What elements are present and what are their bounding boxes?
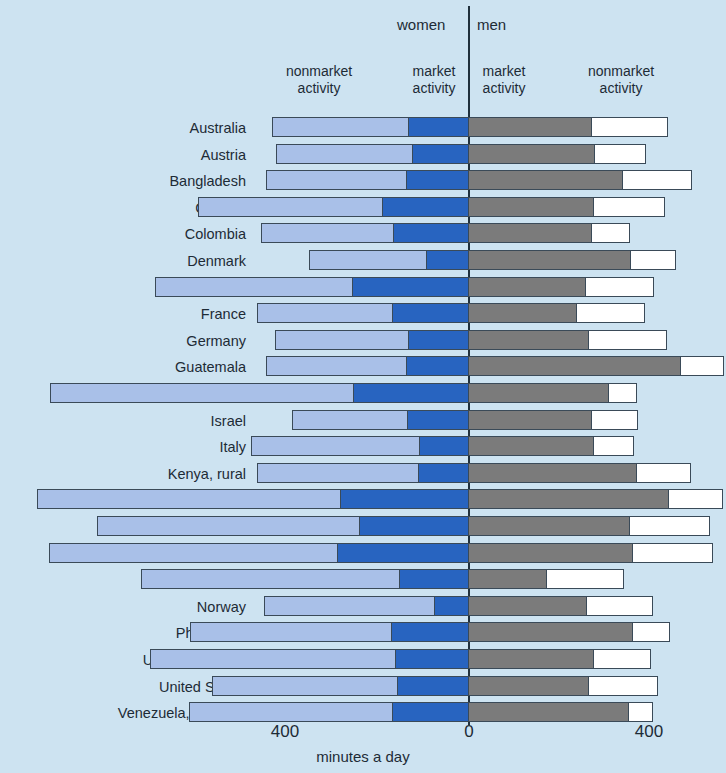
bar-segment-men-nonmarket bbox=[668, 489, 723, 509]
bar-segment-men-nonmarket bbox=[576, 303, 645, 323]
bar-segment-men-nonmarket bbox=[591, 223, 630, 243]
bar-segment-men-market bbox=[468, 356, 681, 376]
bar-segment-women-market bbox=[407, 410, 469, 430]
bar-segment-women-market bbox=[382, 197, 469, 217]
bar-segment-women-market bbox=[392, 303, 469, 323]
country-label: France bbox=[28, 305, 246, 324]
bar-segment-men-nonmarket bbox=[636, 463, 691, 483]
bar-segment-women-market bbox=[359, 516, 469, 536]
bar-segment-women-nonmarket bbox=[261, 223, 394, 243]
table-row: Guatemala bbox=[0, 356, 726, 383]
bar-segment-men-nonmarket bbox=[630, 250, 676, 270]
bar-segment-men-nonmarket bbox=[632, 543, 713, 563]
bar-segment-men-nonmarket bbox=[632, 622, 670, 642]
bar-segment-men-market bbox=[468, 383, 609, 403]
bar-segment-women-nonmarket bbox=[264, 596, 435, 616]
country-label: Australia bbox=[28, 119, 246, 138]
bar-segment-women-market bbox=[406, 170, 469, 190]
bar-segment-men-market bbox=[468, 250, 631, 270]
bar-segment-men-nonmarket bbox=[588, 676, 658, 696]
country-label: Denmark bbox=[28, 252, 246, 271]
table-row: France bbox=[0, 303, 726, 330]
table-row: Kenya, rural bbox=[0, 463, 726, 490]
bar-segment-women-market bbox=[352, 277, 469, 297]
bar-segment-women-market bbox=[397, 676, 469, 696]
bar-segment-women-market bbox=[408, 117, 469, 137]
bar-segment-men-market bbox=[468, 596, 587, 616]
bar-segment-men-nonmarket bbox=[588, 330, 667, 350]
table-row: Australia bbox=[0, 117, 726, 144]
bar-segment-women-market bbox=[391, 622, 469, 642]
bar-segment-women-market bbox=[337, 543, 469, 563]
bar-segment-men-market bbox=[468, 622, 633, 642]
table-row: Colombia bbox=[0, 223, 726, 250]
bar-segment-women-nonmarket bbox=[266, 170, 407, 190]
table-row: Canada bbox=[0, 197, 726, 224]
bar-segment-men-market bbox=[468, 569, 547, 589]
bar-segment-women-market bbox=[408, 330, 469, 350]
bar-segment-women-market bbox=[406, 356, 469, 376]
bar-segment-men-market bbox=[468, 543, 633, 563]
table-row: Nepal, urban bbox=[0, 543, 726, 570]
bar-segment-women-nonmarket bbox=[257, 303, 393, 323]
table-row: United Kingdom bbox=[0, 649, 726, 676]
bar-segment-women-market bbox=[392, 702, 469, 722]
table-row: Netherlands bbox=[0, 569, 726, 596]
bar-segment-women-nonmarket bbox=[150, 649, 396, 669]
country-label: Austria bbox=[28, 146, 246, 165]
plot-area: AustraliaAustriaBangladeshCanadaColombia… bbox=[0, 0, 726, 730]
bar-segment-men-market bbox=[468, 489, 669, 509]
bar-segment-men-market bbox=[468, 277, 586, 297]
bar-segment-women-market bbox=[412, 144, 469, 164]
bar-segment-men-market bbox=[468, 702, 629, 722]
bar-segment-women-market bbox=[434, 596, 469, 616]
table-row: Nepal, rural bbox=[0, 516, 726, 543]
table-row: Italy bbox=[0, 436, 726, 463]
x-axis-title: minutes a day bbox=[0, 748, 726, 765]
bar-segment-women-market bbox=[393, 223, 469, 243]
x-tick-right-400: 400 bbox=[619, 722, 679, 742]
bar-segment-women-market bbox=[340, 489, 469, 509]
table-row: Philippines bbox=[0, 622, 726, 649]
bar-segment-women-nonmarket bbox=[50, 383, 354, 403]
bar-segment-women-nonmarket bbox=[189, 702, 393, 722]
bar-segment-men-market bbox=[468, 410, 592, 430]
bar-segment-women-nonmarket bbox=[257, 463, 419, 483]
table-row: Finland bbox=[0, 277, 726, 304]
table-row: Kenya, urban bbox=[0, 489, 726, 516]
bar-segment-men-nonmarket bbox=[628, 702, 653, 722]
bar-segment-men-nonmarket bbox=[608, 383, 637, 403]
bar-segment-men-market bbox=[468, 516, 630, 536]
bar-segment-women-nonmarket bbox=[97, 516, 361, 536]
bar-segment-men-market bbox=[468, 197, 594, 217]
table-row: Austria bbox=[0, 144, 726, 171]
bar-segment-men-market bbox=[468, 144, 595, 164]
table-row: Venezuela, R. B. de bbox=[0, 702, 726, 729]
bar-segment-men-nonmarket bbox=[629, 516, 710, 536]
bar-segment-men-market bbox=[468, 330, 589, 350]
bar-segment-women-nonmarket bbox=[276, 144, 413, 164]
bar-segment-women-nonmarket bbox=[155, 277, 353, 297]
table-row: Indonesia bbox=[0, 383, 726, 410]
bar-segment-women-nonmarket bbox=[266, 356, 407, 376]
bar-segment-men-nonmarket bbox=[593, 197, 665, 217]
country-label: Italy bbox=[28, 438, 246, 457]
bar-segment-women-market bbox=[353, 383, 469, 403]
bar-segment-women-market bbox=[426, 250, 469, 270]
bar-segment-women-nonmarket bbox=[198, 197, 383, 217]
bar-segment-men-nonmarket bbox=[586, 596, 653, 616]
bar-segment-women-market bbox=[418, 463, 469, 483]
bar-segment-women-nonmarket bbox=[275, 330, 409, 350]
country-label: Colombia bbox=[28, 225, 246, 244]
bar-segment-men-market bbox=[468, 676, 589, 696]
country-label: Germany bbox=[28, 332, 246, 351]
bar-segment-men-market bbox=[468, 170, 623, 190]
table-row: United States bbox=[0, 676, 726, 703]
bar-segment-men-market bbox=[468, 436, 594, 456]
country-label: Israel bbox=[28, 412, 246, 431]
bar-segment-men-nonmarket bbox=[593, 436, 634, 456]
bar-segment-men-market bbox=[468, 463, 637, 483]
table-row: Bangladesh bbox=[0, 170, 726, 197]
bar-segment-men-nonmarket bbox=[591, 117, 668, 137]
bar-segment-women-nonmarket bbox=[292, 410, 408, 430]
